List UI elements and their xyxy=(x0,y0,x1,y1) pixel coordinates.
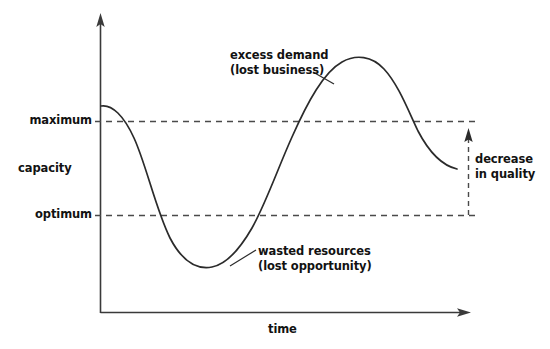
y-axis xyxy=(96,13,104,313)
annotation-decrease-in-quality-line2: in quality xyxy=(475,167,535,182)
annotation-wasted-resources-line1: wasted resources xyxy=(258,244,372,259)
y-tick-label-maximum: maximum xyxy=(14,113,92,128)
x-axis xyxy=(101,308,472,316)
y-axis-title: capacity xyxy=(18,161,72,176)
y-tick-label-optimum: optimum xyxy=(14,207,92,222)
annotation-excess-demand-line1: excess demand xyxy=(230,48,328,63)
annotation-decrease-in-quality-line1: decrease xyxy=(475,152,535,167)
annotation-excess-demand: excess demand (lost business) xyxy=(230,48,328,78)
annotation-wasted-resources-line2: (lost opportunity) xyxy=(258,259,372,274)
decrease-in-quality-measure xyxy=(464,128,472,215)
annotation-wasted-resources: wasted resources (lost opportunity) xyxy=(258,244,372,274)
annotation-decrease-in-quality: decrease in quality xyxy=(475,152,535,182)
annotation-excess-demand-line2: (lost business) xyxy=(230,63,328,78)
capacity-curve xyxy=(101,57,457,267)
x-axis-title: time xyxy=(268,322,297,337)
